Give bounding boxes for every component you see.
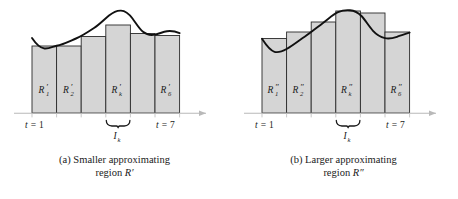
svg-text:k: k (118, 136, 122, 143)
bar-r1-double (262, 39, 287, 114)
svg-text:R: R (340, 85, 347, 95)
axis-label-left: t=1 (25, 120, 44, 130)
svg-text:R: R (38, 85, 45, 95)
caption-line-1: (a) Smaller approximating (0, 154, 229, 167)
circumscribed-rectangles-group (262, 11, 410, 113)
caption-line-2: region R″ (229, 167, 458, 180)
bar-r6-double (385, 32, 410, 113)
bar-r2-double (287, 32, 312, 113)
svg-text:R: R (292, 85, 299, 95)
figure-root: R ′ 1 R ′ 2 R ′ k R ′ 6 t=1 (0, 0, 458, 199)
caption-panel-a: (a) Smaller approximating region R′ (0, 154, 229, 179)
panel-larger-approximating-region: R ″ 1 R ″ 2 R ″ k R ″ 6 t=1 (229, 0, 458, 199)
svg-text:R: R (160, 85, 167, 95)
caption-line-1: (b) Larger approximating (229, 154, 458, 167)
axis-ticks (32, 113, 180, 117)
caption-region-symbol: R′ (125, 167, 134, 178)
bar-r5-double (360, 13, 385, 113)
svg-text:1: 1 (46, 90, 49, 97)
bar-r1 (32, 46, 57, 113)
bar-rk (106, 25, 131, 113)
panel-smaller-approximating-region: R ′ 1 R ′ 2 R ′ k R ′ 6 t=1 (0, 0, 229, 199)
inscribed-rectangles-group (32, 25, 180, 113)
interval-label-ik: I k (113, 131, 122, 143)
interval-label-ik: I k (343, 131, 352, 143)
bar-r6 (155, 36, 180, 114)
svg-text:k: k (348, 136, 352, 143)
caption-region-word: region (95, 167, 124, 178)
caption-line-2: region R′ (0, 167, 229, 180)
bar-rk-double (336, 11, 361, 113)
svg-text:1: 1 (275, 90, 278, 97)
axis-label-right: t=7 (156, 120, 175, 130)
caption-panel-b: (b) Larger approximating region R″ (229, 154, 458, 179)
svg-text:R: R (390, 85, 397, 95)
axis-label-left: t=1 (255, 120, 274, 130)
svg-text:R: R (111, 85, 118, 95)
bar-r2 (57, 46, 82, 113)
plot-larger-approximating-region: R ″ 1 R ″ 2 R ″ k R ″ 6 t=1 (229, 0, 458, 154)
axis-label-right: t=7 (386, 120, 405, 130)
caption-region-word: region (323, 167, 352, 178)
svg-text:R: R (62, 85, 69, 95)
interval-brace (336, 121, 360, 128)
interval-brace (106, 121, 130, 128)
bar-r3-double (311, 22, 336, 113)
bar-r5 (130, 34, 155, 114)
svg-text:R: R (267, 85, 274, 95)
bar-r3 (81, 37, 106, 114)
caption-region-symbol: R″ (353, 167, 364, 178)
plot-smaller-approximating-region: R ′ 1 R ′ 2 R ′ k R ′ 6 t=1 (0, 0, 229, 154)
axis-ticks (262, 113, 410, 117)
